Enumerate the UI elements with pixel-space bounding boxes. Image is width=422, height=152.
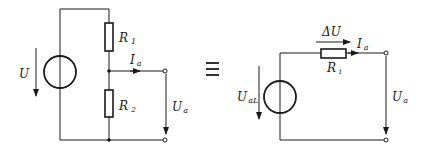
terminal-top — [384, 51, 388, 55]
label-r1: R1 — [118, 31, 136, 46]
internal-resistor-icon — [321, 49, 346, 58]
label-r2: R2 — [118, 99, 136, 114]
terminal-bottom — [163, 138, 167, 142]
label-ua-right: Ua — [392, 90, 408, 105]
terminal-bottom — [384, 138, 388, 142]
junction-dot — [108, 139, 111, 142]
resistor-r2-icon — [105, 90, 113, 117]
label-delta-u: ΔU — [321, 25, 342, 39]
equivalence-icon — [206, 63, 219, 75]
label-ua-left: Ua — [172, 100, 188, 115]
right-circuit — [259, 42, 388, 142]
terminal-top — [163, 69, 167, 73]
label-ia-right: Ia — [356, 37, 369, 52]
label-u: U — [19, 67, 30, 81]
resistor-r1-icon — [105, 23, 113, 51]
label-ia-left: Ia — [129, 53, 142, 68]
circuit-diagram: U R1 R2 Ia Ua ΔU Ia Ri UaL Ua — [0, 0, 422, 152]
label-ual: UaL — [237, 90, 258, 105]
left-circuit — [36, 9, 167, 142]
junction-dot — [108, 70, 111, 73]
label-ri: Ri — [326, 61, 342, 76]
